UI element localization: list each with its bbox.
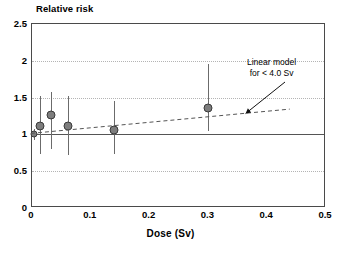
data-point: [110, 125, 119, 134]
annotation-line-1: Linear model: [247, 57, 296, 68]
x-tick-0.5: 0.5: [305, 209, 341, 220]
chart-figure: Relative risk 00.511.522.5 00.10.20.30.4…: [0, 0, 341, 256]
data-point: [30, 131, 37, 138]
y-tick-2: 2: [0, 54, 27, 65]
annotation-line-2: for < 4.0 Sv: [247, 68, 296, 79]
x-axis-title: Dose (Sv): [0, 228, 341, 239]
y-tick-0.5: 0.5: [0, 165, 27, 176]
y-tick-1: 1: [0, 128, 27, 139]
x-tick-0.2: 0.2: [129, 209, 169, 220]
plot-area: [31, 23, 325, 207]
reference-line-1: [32, 134, 324, 135]
data-point: [47, 110, 56, 119]
linear-model-annotation: Linear model for < 4.0 Sv: [247, 57, 296, 79]
data-point: [35, 121, 44, 130]
data-point: [64, 122, 73, 131]
error-bar: [208, 64, 209, 131]
y-axis-title: Relative risk: [36, 3, 93, 14]
x-tick-0.3: 0.3: [187, 209, 227, 220]
error-bar: [51, 92, 52, 149]
data-point: [204, 103, 213, 112]
x-tick-0.1: 0.1: [70, 209, 110, 220]
x-tick-0: 0: [11, 209, 51, 220]
y-tick-1.5: 1.5: [0, 91, 27, 102]
gridline-1.5: [32, 98, 324, 99]
gridline-0.5: [32, 171, 324, 172]
x-tick-0.4: 0.4: [246, 209, 286, 220]
y-tick-2.5: 2.5: [0, 18, 27, 29]
